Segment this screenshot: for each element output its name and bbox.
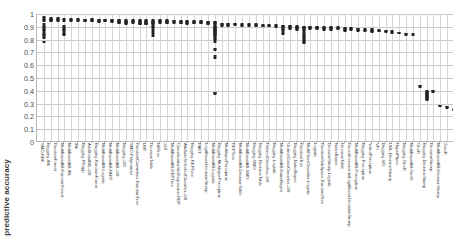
data-point bbox=[370, 31, 373, 33]
x-axis-tick: MultilayerPerceptron bbox=[224, 143, 229, 181]
data-point bbox=[425, 99, 428, 101]
x-axis-tick: MultiBoostAB-SMO bbox=[245, 143, 250, 179]
x-axis-tick: DecisionStump bbox=[429, 143, 434, 171]
x-axis-tick: Bagging-VFI bbox=[381, 143, 386, 166]
vertical-gridline bbox=[112, 14, 113, 141]
data-point bbox=[124, 23, 127, 25]
y-axis-tick-labels: 10.90.80.70.60.50.40.30.20.10 bbox=[12, 14, 34, 142]
x-axis-tick: MultiBoostAB-Logistic bbox=[211, 143, 216, 184]
data-point bbox=[49, 20, 52, 22]
data-point bbox=[111, 21, 114, 23]
data-point bbox=[309, 28, 312, 30]
x-axis-tick: MultiBoostAB-Logistic bbox=[101, 143, 106, 184]
x-axis-tick: RandomCommittee-RandomTree bbox=[135, 143, 140, 205]
x-axis-tick: MultiBoostAB-REPTree bbox=[170, 143, 175, 187]
data-point bbox=[97, 21, 100, 23]
vertical-gridline bbox=[133, 14, 134, 141]
data-point bbox=[343, 30, 346, 32]
x-axis-tick: RandomSubSpace-RandomTree bbox=[320, 143, 325, 204]
vertical-gridline bbox=[358, 14, 359, 141]
y-axis-tick: 0.6 bbox=[12, 61, 34, 70]
vertical-gridline bbox=[126, 14, 127, 141]
y-axis-tick: 0.8 bbox=[12, 35, 34, 44]
vertical-gridline bbox=[386, 14, 387, 141]
vertical-gridline bbox=[324, 14, 325, 141]
x-axis-tick: IBk bbox=[74, 143, 79, 149]
x-axis-tick: Bagging-SMO bbox=[252, 143, 257, 169]
data-point bbox=[241, 24, 244, 26]
vertical-gridline bbox=[119, 14, 120, 141]
x-axis-tick: DecisionTable bbox=[149, 143, 154, 169]
data-point bbox=[288, 28, 291, 30]
data-point bbox=[261, 25, 264, 27]
vertical-gridline bbox=[276, 14, 277, 141]
vertical-gridline bbox=[201, 14, 202, 141]
x-axis-tick: REPTree bbox=[231, 143, 236, 160]
data-point bbox=[227, 24, 230, 26]
x-axis-tick: MultiBoostAB-NaiveBayes bbox=[279, 143, 284, 192]
vertical-gridline bbox=[235, 14, 236, 141]
data-point bbox=[302, 42, 305, 44]
vertical-gridline bbox=[263, 14, 264, 141]
data-point bbox=[357, 30, 360, 32]
vertical-gridline bbox=[269, 14, 270, 141]
x-axis-tick: Bagging-PRapp bbox=[81, 143, 86, 173]
vertical-gridline bbox=[420, 14, 421, 141]
data-point bbox=[350, 28, 353, 30]
x-axis-tick: Bagging-DecisionStump bbox=[422, 143, 427, 188]
x-axis-tick: ClassificationViaRegression-REP bbox=[176, 143, 181, 205]
x-axis-tick: MultiBoostAB-RandomForest bbox=[60, 143, 65, 197]
vertical-gridline bbox=[92, 14, 93, 141]
data-point bbox=[83, 20, 86, 22]
x-axis-tick: MultiBoostAB-J48 bbox=[115, 143, 120, 176]
vertical-gridline bbox=[249, 14, 250, 141]
x-axis-tick: MultiBoostAB-DecisionTable bbox=[238, 143, 243, 196]
data-point bbox=[323, 28, 326, 30]
data-point bbox=[418, 85, 421, 87]
vertical-gridline bbox=[351, 14, 352, 141]
vertical-gridline bbox=[331, 14, 332, 141]
x-axis-tick: OneR bbox=[416, 143, 421, 154]
data-point bbox=[329, 28, 332, 30]
x-axis-tick: LMT bbox=[142, 143, 147, 151]
vertical-gridline bbox=[208, 14, 209, 141]
vertical-gridline bbox=[290, 14, 291, 141]
x-axis-tick: MultiBoostAB-IBk bbox=[67, 143, 72, 176]
x-axis-tick: Bagging-DecisionTable bbox=[258, 143, 263, 186]
data-point bbox=[295, 28, 298, 30]
vertical-gridline bbox=[372, 14, 373, 141]
vertical-gridline bbox=[242, 14, 243, 141]
data-point bbox=[275, 25, 278, 27]
x-axis-tick: Bagging-J48 bbox=[122, 143, 127, 167]
data-point bbox=[453, 109, 454, 111]
x-axis-tick: VFI bbox=[375, 143, 380, 150]
y-axis-tick: 0.2 bbox=[12, 112, 34, 121]
data-point bbox=[377, 30, 380, 32]
vertical-gridline bbox=[427, 14, 428, 141]
data-point bbox=[159, 21, 162, 23]
data-point bbox=[282, 33, 285, 35]
data-point bbox=[254, 25, 257, 27]
x-axis-tick: NaiveBayes bbox=[334, 143, 339, 165]
vertical-gridline bbox=[222, 14, 223, 141]
y-axis-tick: 0 bbox=[12, 138, 34, 147]
data-point bbox=[213, 92, 216, 94]
vertical-gridline bbox=[174, 14, 175, 141]
x-axis-tick: Bagging-NaiveBayes bbox=[293, 143, 298, 182]
data-point bbox=[234, 24, 237, 26]
vertical-gridline bbox=[297, 14, 298, 141]
data-point bbox=[56, 19, 59, 21]
vertical-gridline bbox=[167, 14, 168, 141]
data-point bbox=[104, 20, 107, 22]
y-axis-tick: 0.5 bbox=[12, 74, 34, 83]
vertical-gridline bbox=[338, 14, 339, 141]
x-axis-tick: OrdinalClassClassifier-J48 bbox=[286, 143, 291, 192]
vertical-gridline bbox=[379, 14, 380, 141]
data-point bbox=[206, 23, 209, 25]
vertical-gridline bbox=[146, 14, 147, 141]
vertical-gridline bbox=[440, 14, 441, 141]
y-axis-tick: 1 bbox=[12, 10, 34, 19]
data-point bbox=[131, 21, 134, 23]
x-axis-tick: LogitBoost-DecisionStump bbox=[204, 143, 209, 192]
x-axis-tick: RandomTree bbox=[299, 143, 304, 167]
